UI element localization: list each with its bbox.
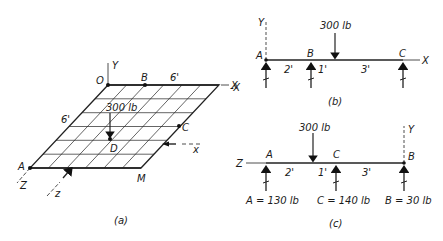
load-label-b: 300 lb xyxy=(320,20,351,31)
support-B-c: B xyxy=(408,151,415,162)
span-2-c: 1' xyxy=(318,167,327,178)
span-2-b: 1' xyxy=(318,64,327,75)
label-Z-a: Z xyxy=(19,180,28,191)
label-Y-a: Y xyxy=(112,60,119,71)
reaction-A: A = 130 lb xyxy=(245,195,299,206)
label-B-a: B xyxy=(141,72,148,83)
caption-a: (a) xyxy=(114,215,128,226)
load-label-c: 300 lb xyxy=(299,122,330,133)
support-C-c: C xyxy=(333,149,340,160)
label-x-section: x xyxy=(192,144,199,155)
load-label-a: 300 lb xyxy=(106,102,137,113)
label-O: O xyxy=(96,75,104,86)
label-X-b: X xyxy=(421,55,430,66)
statics-diagram: Y O B 6' X 6' 300 lb C D x A Z M z (a) Y… xyxy=(0,0,443,241)
caption-c: (c) xyxy=(329,218,342,229)
label-z-section: z xyxy=(54,188,61,199)
reaction-C: C = 140 lb xyxy=(317,195,370,206)
support-A-b: A xyxy=(255,50,263,61)
support-A-c: A xyxy=(265,149,273,160)
label-Y-c: Y xyxy=(408,124,415,135)
label-Y-b: Y xyxy=(258,17,265,28)
plate-figure-a xyxy=(17,63,229,196)
label-negX-b: -X xyxy=(230,82,241,93)
dim-top-a: 6' xyxy=(170,72,179,83)
label-Z-c: Z xyxy=(235,158,244,169)
support-B-b: B xyxy=(307,48,314,59)
reaction-B: B = 30 lb xyxy=(385,195,432,206)
span-3-c: 3' xyxy=(362,167,371,178)
span-1-b: 2' xyxy=(284,64,293,75)
dim-left-a: 6' xyxy=(61,114,70,125)
span-3-b: 3' xyxy=(361,64,370,75)
label-M: M xyxy=(137,173,146,184)
support-C-b: C xyxy=(399,48,406,59)
label-A-a: A xyxy=(17,161,25,172)
label-C-a: C xyxy=(182,122,189,133)
caption-b: (b) xyxy=(328,96,342,107)
span-1-c: 2' xyxy=(285,167,294,178)
label-D: D xyxy=(110,143,118,154)
